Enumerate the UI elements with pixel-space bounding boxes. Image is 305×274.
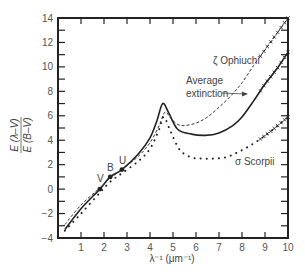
y-axis-label-numerator: E (λ–V) xyxy=(9,118,20,151)
label-extinction: extinction xyxy=(186,88,228,99)
marker-b xyxy=(108,174,113,179)
x-tick-label: 3 xyxy=(124,242,130,253)
y-tick-label: 8 xyxy=(47,86,53,97)
y-tick-label: 2 xyxy=(47,159,53,170)
x-mark-icon xyxy=(273,127,276,130)
y-axis-label: E (λ–V) E (B–V) xyxy=(9,117,33,153)
y-tick-label: 12 xyxy=(42,37,54,48)
label-average: Average xyxy=(186,75,224,86)
label-sigma-scorpii: σ Scorpii xyxy=(235,156,275,167)
label-b: B xyxy=(107,162,114,173)
series-solid-line xyxy=(65,52,288,229)
x-mark-icon xyxy=(262,50,265,53)
x-mark-icon xyxy=(269,40,272,43)
x-mark-icon xyxy=(276,31,279,34)
axis-ticks: 12345678910−4−202468101214 xyxy=(42,13,294,254)
x-mark-icon xyxy=(283,118,286,121)
marker-v xyxy=(97,187,102,192)
y-axis-label-denominator: E (B–V) xyxy=(22,117,33,152)
x-tick-label: 7 xyxy=(216,242,222,253)
x-tick-label: 10 xyxy=(282,242,294,253)
x-marks-layer xyxy=(259,16,290,140)
label-zeta-ophiuchi: ζ Ophiuchi xyxy=(213,55,260,67)
label-u: U xyxy=(119,155,126,166)
x-tick-label: 5 xyxy=(170,242,176,253)
x-mark-icon xyxy=(283,21,286,24)
y-tick-label: −2 xyxy=(42,208,54,219)
plot-frame xyxy=(58,18,288,238)
y-tick-label: 6 xyxy=(47,110,53,121)
x-mark-icon xyxy=(259,137,262,140)
x-mark-icon xyxy=(266,45,269,48)
y-tick-label: 10 xyxy=(42,61,54,72)
x-mark-icon xyxy=(280,26,283,29)
y-tick-label: −4 xyxy=(42,233,54,244)
label-v: V xyxy=(97,173,104,184)
x-tick-label: 1 xyxy=(78,242,84,253)
x-tick-label: 9 xyxy=(262,242,268,253)
y-tick-label: 14 xyxy=(42,13,54,24)
x-mark-icon xyxy=(269,130,272,133)
extinction-chart: 12345678910−4−202468101214 λ⁻¹ (μm⁻¹) E … xyxy=(0,0,305,274)
series-layer xyxy=(65,18,288,231)
x-tick-label: 4 xyxy=(147,242,153,253)
y-tick-label: 0 xyxy=(47,184,53,195)
series-dashed-line xyxy=(65,18,288,225)
x-tick-label: 2 xyxy=(101,242,107,253)
marker-u xyxy=(120,167,125,172)
x-mark-icon xyxy=(262,135,265,138)
x-tick-label: 8 xyxy=(239,242,245,253)
y-tick-label: 4 xyxy=(47,135,53,146)
x-tick-label: 6 xyxy=(193,242,199,253)
x-mark-icon xyxy=(273,35,276,38)
x-axis-label: λ⁻¹ (μm⁻¹) xyxy=(149,253,194,264)
